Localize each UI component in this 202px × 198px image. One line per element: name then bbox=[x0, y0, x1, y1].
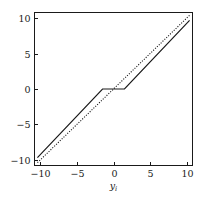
y-tick-label: 5 bbox=[24, 49, 30, 60]
figure-container: −10−50510 −10−50510 yi bbox=[0, 0, 202, 198]
x-tick-label: 10 bbox=[181, 168, 193, 179]
y-tick-label: 0 bbox=[24, 84, 30, 95]
chart-canvas: −10−50510 −10−50510 yi bbox=[0, 0, 202, 198]
x-tick-label: 0 bbox=[111, 168, 117, 179]
y-tick-label: −10 bbox=[10, 155, 30, 166]
y-tick-label: −5 bbox=[16, 119, 30, 130]
x-tick-label: −5 bbox=[70, 168, 84, 179]
y-tick-label: 10 bbox=[18, 13, 30, 24]
x-tick-label: 5 bbox=[147, 168, 153, 179]
x-tick-label: −10 bbox=[30, 168, 50, 179]
